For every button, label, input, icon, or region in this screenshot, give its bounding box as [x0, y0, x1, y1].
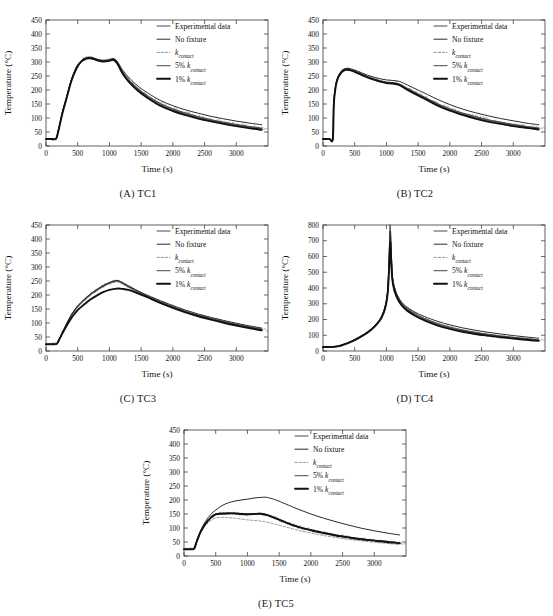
chart-D: 0100200300400500600700800050010001500200…: [277, 213, 553, 391]
svg-text:100: 100: [31, 319, 42, 328]
svg-text:kcontact: kcontact: [313, 458, 332, 469]
panel-A-tc1: 0501001502002503003504004500500100015002…: [0, 8, 276, 206]
panel-C-tc3: 0501001502002503003504004500500100015002…: [0, 213, 276, 411]
panel-B-tc2: 0501001502002503003504004500500100015002…: [277, 8, 553, 206]
svg-text:2500: 2500: [335, 559, 350, 568]
svg-text:0: 0: [182, 559, 186, 568]
svg-text:0: 0: [44, 354, 48, 363]
svg-text:200: 200: [169, 496, 180, 505]
svg-text:250: 250: [31, 277, 42, 286]
panel-D-caption: (D) TC4: [277, 393, 553, 404]
svg-text:350: 350: [169, 454, 180, 463]
svg-text:400: 400: [169, 440, 180, 449]
svg-text:1000: 1000: [102, 149, 117, 158]
svg-text:Temperature (°C): Temperature (°C): [141, 461, 151, 526]
svg-text:300: 300: [308, 299, 319, 308]
svg-text:No fixture: No fixture: [175, 35, 207, 44]
svg-text:2000: 2000: [165, 354, 180, 363]
svg-text:3000: 3000: [506, 149, 521, 158]
svg-text:3000: 3000: [229, 149, 244, 158]
svg-text:400: 400: [31, 235, 42, 244]
svg-text:150: 150: [31, 305, 42, 314]
svg-text:400: 400: [308, 284, 319, 293]
chart-C: 0501001502002503003504004500500100015002…: [0, 213, 276, 391]
svg-text:2500: 2500: [197, 149, 212, 158]
svg-text:1000: 1000: [102, 354, 117, 363]
svg-text:500: 500: [349, 149, 360, 158]
svg-text:2000: 2000: [165, 149, 180, 158]
svg-text:1% kcontact: 1% kcontact: [452, 280, 483, 291]
svg-text:0: 0: [44, 149, 48, 158]
svg-text:Experimental data: Experimental data: [313, 432, 369, 441]
svg-text:200: 200: [308, 86, 319, 95]
svg-text:Experimental data: Experimental data: [452, 22, 508, 31]
svg-text:100: 100: [169, 524, 180, 533]
svg-text:0: 0: [315, 347, 319, 356]
svg-text:0: 0: [38, 142, 42, 151]
svg-text:1500: 1500: [134, 149, 149, 158]
svg-text:50: 50: [312, 128, 320, 137]
svg-text:1000: 1000: [240, 559, 255, 568]
chart-A: 0501001502002503003504004500500100015002…: [0, 8, 276, 186]
svg-text:Temperature (°C): Temperature (°C): [280, 256, 290, 321]
svg-text:kcontact: kcontact: [175, 48, 194, 59]
svg-text:kcontact: kcontact: [452, 48, 471, 59]
svg-text:Time (s): Time (s): [418, 369, 449, 379]
svg-text:700: 700: [308, 236, 319, 245]
svg-text:0: 0: [321, 149, 325, 158]
svg-text:1500: 1500: [134, 354, 149, 363]
svg-text:1000: 1000: [379, 354, 394, 363]
svg-text:50: 50: [35, 128, 43, 137]
svg-text:Time (s): Time (s): [141, 369, 172, 379]
svg-text:3000: 3000: [367, 559, 382, 568]
svg-text:350: 350: [31, 249, 42, 258]
svg-text:450: 450: [169, 426, 180, 435]
svg-text:50: 50: [173, 538, 181, 547]
svg-text:150: 150: [308, 100, 319, 109]
panel-E-tc5: 0501001502002503003504004500500100015002…: [138, 418, 414, 616]
svg-text:2000: 2000: [303, 559, 318, 568]
svg-text:3000: 3000: [229, 354, 244, 363]
svg-text:5% kcontact: 5% kcontact: [452, 266, 483, 277]
svg-text:1500: 1500: [272, 559, 287, 568]
svg-text:350: 350: [31, 44, 42, 53]
panel-A-caption: (A) TC1: [0, 188, 276, 199]
figure-thermocouple-comparison: 0501001502002503003504004500500100015002…: [0, 0, 553, 616]
svg-text:0: 0: [38, 347, 42, 356]
svg-text:150: 150: [169, 510, 180, 519]
svg-text:0: 0: [315, 142, 319, 151]
svg-text:Time (s): Time (s): [418, 164, 449, 174]
svg-text:400: 400: [31, 30, 42, 39]
svg-text:Temperature (°C): Temperature (°C): [3, 51, 13, 116]
chart-B: 0501001502002503003504004500500100015002…: [277, 8, 553, 186]
svg-text:1500: 1500: [411, 354, 426, 363]
svg-text:200: 200: [308, 315, 319, 324]
svg-text:250: 250: [169, 482, 180, 491]
svg-text:No fixture: No fixture: [452, 240, 484, 249]
svg-text:0: 0: [321, 354, 325, 363]
panel-E-caption: (E) TC5: [138, 598, 414, 609]
svg-text:1500: 1500: [411, 149, 426, 158]
svg-text:300: 300: [31, 58, 42, 67]
svg-text:300: 300: [169, 468, 180, 477]
svg-text:kcontact: kcontact: [452, 253, 471, 264]
svg-text:5% kcontact: 5% kcontact: [313, 471, 344, 482]
svg-text:500: 500: [349, 354, 360, 363]
svg-text:No fixture: No fixture: [175, 240, 207, 249]
svg-text:Experimental data: Experimental data: [175, 227, 231, 236]
svg-text:200: 200: [31, 86, 42, 95]
svg-text:500: 500: [308, 268, 319, 277]
panel-D-tc4: 0100200300400500600700800050010001500200…: [277, 213, 553, 411]
svg-text:150: 150: [31, 100, 42, 109]
svg-text:Time (s): Time (s): [141, 164, 172, 174]
panel-B-caption: (B) TC2: [277, 188, 553, 199]
svg-text:5% kcontact: 5% kcontact: [175, 266, 206, 277]
svg-text:100: 100: [308, 114, 319, 123]
svg-text:300: 300: [31, 263, 42, 272]
svg-text:250: 250: [31, 72, 42, 81]
svg-text:No fixture: No fixture: [313, 445, 345, 454]
svg-text:2000: 2000: [442, 354, 457, 363]
svg-text:200: 200: [31, 291, 42, 300]
svg-text:2000: 2000: [442, 149, 457, 158]
svg-text:450: 450: [31, 221, 42, 230]
